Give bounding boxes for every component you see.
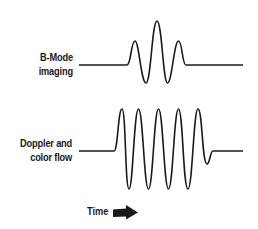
doppler-waveform [79, 109, 243, 189]
bmode-waveform [79, 21, 243, 83]
time-axis-label: Time [87, 205, 108, 217]
waveforms [0, 0, 258, 229]
right-arrow-icon [113, 205, 138, 220]
